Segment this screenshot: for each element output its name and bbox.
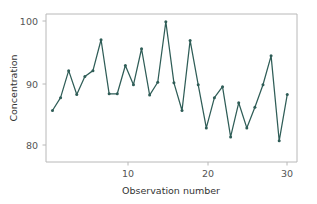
data-point — [108, 92, 111, 95]
data-point — [83, 75, 86, 78]
data-point — [67, 69, 70, 72]
data-point — [286, 93, 289, 96]
data-point — [140, 47, 143, 50]
y-axis-title: Concentration — [8, 54, 19, 121]
data-point — [164, 20, 167, 23]
y-tick-label-80: 80 — [26, 140, 38, 151]
data-point — [261, 83, 264, 86]
y-tick-label-100: 100 — [20, 16, 38, 27]
x-tick-label-30: 30 — [281, 168, 293, 179]
data-point — [270, 54, 273, 57]
data-point — [237, 101, 240, 104]
data-point — [132, 83, 135, 86]
data-point — [51, 109, 54, 112]
y-tick-label-90: 90 — [26, 79, 38, 90]
data-point — [100, 38, 103, 41]
data-point — [205, 126, 208, 129]
data-point — [75, 93, 78, 96]
y-tick-labels: 100 90 80 — [20, 16, 38, 151]
data-point — [213, 96, 216, 99]
data-point — [156, 81, 159, 84]
data-point — [278, 139, 281, 142]
x-tick-label-10: 10 — [122, 168, 134, 179]
chart-figure: 100 90 80 10 20 30 Observation number Co… — [0, 0, 317, 204]
plot-background — [46, 14, 297, 162]
data-point — [221, 85, 224, 88]
x-tick-label-20: 20 — [202, 168, 214, 179]
data-point — [253, 106, 256, 109]
data-point — [124, 64, 127, 67]
x-tick-labels: 10 20 30 — [122, 168, 293, 179]
data-point — [116, 92, 119, 95]
data-point — [148, 94, 151, 97]
data-point — [181, 109, 184, 112]
line-chart-svg: 100 90 80 10 20 30 Observation number Co… — [0, 0, 317, 204]
data-point — [91, 69, 94, 72]
y-axis-ticks — [43, 21, 47, 145]
data-point — [245, 126, 248, 129]
data-point — [189, 39, 192, 42]
x-axis-title: Observation number — [122, 185, 220, 196]
x-axis-ticks — [128, 162, 287, 166]
data-point — [59, 96, 62, 99]
data-point — [172, 81, 175, 84]
data-point — [197, 83, 200, 86]
data-point — [229, 135, 232, 138]
